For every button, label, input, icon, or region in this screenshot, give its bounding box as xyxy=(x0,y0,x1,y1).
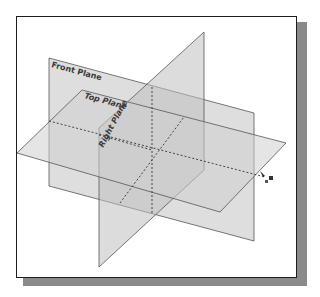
rotate-cursor-icon xyxy=(260,171,273,183)
planes-scene: Front Plane Top Plane Right Plane xyxy=(0,0,320,297)
